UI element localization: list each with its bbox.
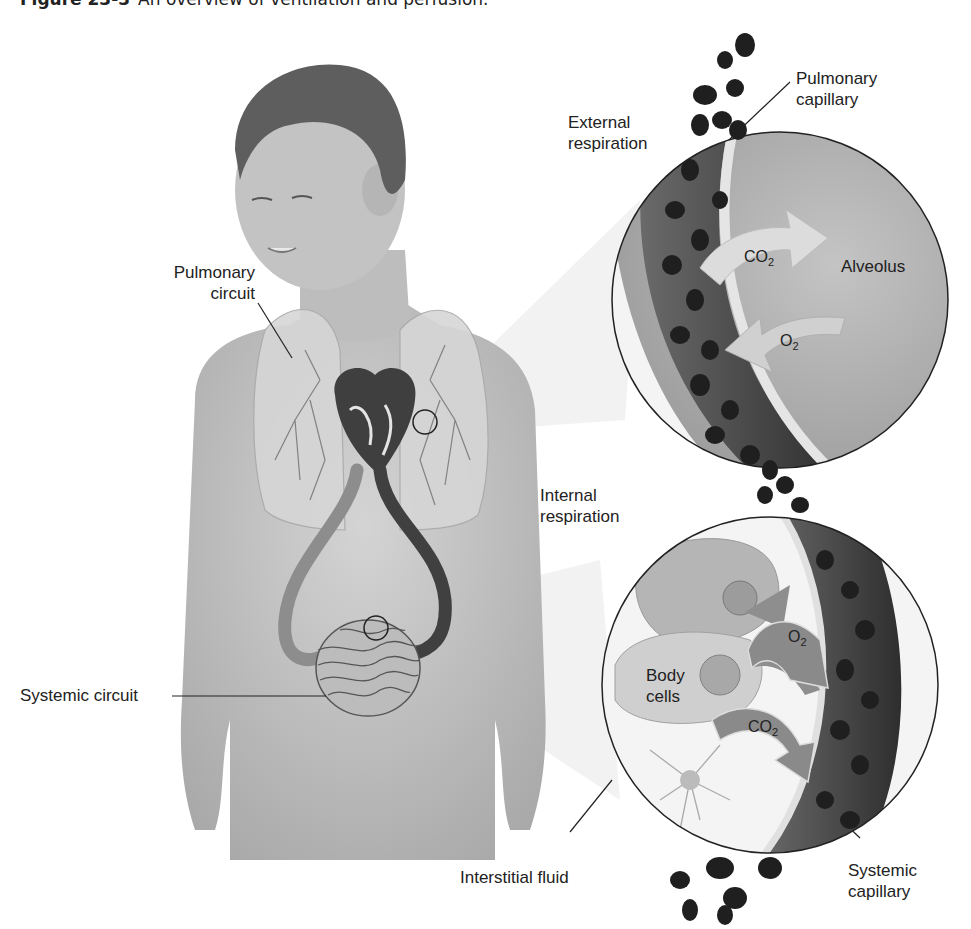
gas-co2-internal: CO2 — [748, 718, 778, 738]
gas-base: O — [780, 332, 792, 349]
gas-subscript: 2 — [800, 636, 806, 648]
label-pulmonary-circuit: Pulmonary circuit — [145, 262, 255, 304]
label-line: Systemic circuit — [20, 686, 138, 705]
label-line: Internal — [540, 485, 619, 506]
label-line: capillary — [796, 89, 877, 110]
label-line: Pulmonary — [145, 262, 255, 283]
gas-subscript: 2 — [768, 256, 774, 268]
gas-base: CO — [748, 718, 772, 735]
gas-base: CO — [744, 248, 768, 265]
label-external-respiration: External respiration — [568, 112, 647, 154]
anatomy-illustration — [0, 0, 971, 929]
label-internal-respiration: Internal respiration — [540, 485, 619, 527]
label-line: capillary — [848, 881, 917, 902]
label-interstitial-fluid: Interstitial fluid — [460, 867, 569, 888]
gas-co2-external: CO2 — [744, 248, 774, 268]
gas-o2-external: O2 — [780, 332, 799, 352]
gas-subscript: 2 — [772, 726, 778, 738]
label-line: respiration — [540, 506, 619, 527]
label-line: respiration — [568, 133, 647, 154]
label-line: Systemic — [848, 860, 917, 881]
label-line: cells — [646, 686, 685, 707]
label-systemic-circuit: Systemic circuit — [20, 685, 138, 706]
gas-base: O — [788, 628, 800, 645]
label-line: Pulmonary — [796, 68, 877, 89]
label-line: Body — [646, 665, 685, 686]
label-line: Alveolus — [841, 257, 905, 276]
ventilation-perfusion-figure: Figure 23-3An overview of ventilation an… — [0, 0, 971, 929]
label-pulmonary-capillary: Pulmonary capillary — [796, 68, 877, 110]
human-figure — [181, 64, 546, 860]
label-line: circuit — [145, 283, 255, 304]
label-systemic-capillary: Systemic capillary — [848, 860, 917, 902]
external-respiration-inset — [600, 120, 960, 480]
gas-subscript: 2 — [792, 340, 798, 352]
gas-o2-internal: O2 — [788, 628, 807, 648]
label-body-cells: Body cells — [646, 665, 685, 707]
label-line: External — [568, 112, 647, 133]
label-alveolus: Alveolus — [841, 256, 905, 277]
label-line: Interstitial fluid — [460, 868, 569, 887]
